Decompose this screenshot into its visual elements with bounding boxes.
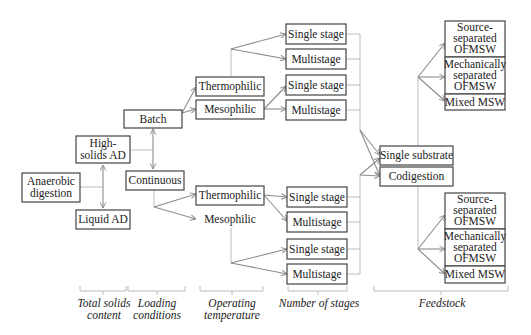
- node-continuous: Continuous: [126, 171, 184, 190]
- node-batch: Batch: [124, 110, 182, 128]
- node-label: solids AD: [80, 149, 126, 161]
- node-label: Single stage: [289, 243, 345, 256]
- node-codigestion: Codigestion: [380, 167, 453, 186]
- node-label: Single stage: [288, 79, 344, 92]
- category-labels: Total solids content Loading conditions …: [78, 297, 467, 322]
- node-single-stage-1: Single stage: [286, 24, 346, 44]
- feedstock-group-bottom: Source- separated OFMSW Mechanically sep…: [444, 193, 507, 283]
- node-label: Mesophilic: [204, 103, 256, 116]
- arrow-bottom-to-single-substrate: [360, 158, 380, 175]
- node-label: Single stage: [288, 28, 344, 41]
- bracket-total-solids: [80, 286, 126, 295]
- node-label: Mixed MSW: [445, 268, 506, 280]
- category-label-total-solids: content: [87, 309, 122, 321]
- node-mesophilic-batch: Mesophilic: [196, 100, 264, 119]
- node-anaerobic-digestion: Anaerobic digestion: [22, 173, 80, 202]
- node-label: OFMSW: [454, 43, 496, 55]
- bracket-stages: [288, 286, 347, 295]
- node-label: Mixed MSW: [445, 96, 506, 108]
- arrow-to-source-separated-top: [418, 43, 445, 77]
- category-label-stages: Number of stages: [278, 297, 360, 310]
- arrow-top-to-single-substrate: [360, 130, 380, 155]
- node-label: Liquid AD: [78, 213, 128, 226]
- node-label: Codigestion: [389, 170, 445, 183]
- node-label: digestion: [30, 187, 72, 200]
- node-label: Multistage: [291, 53, 340, 66]
- category-brackets: [80, 286, 508, 295]
- bracket-feedstock: [374, 286, 508, 295]
- node-label: Single substrate: [380, 149, 453, 162]
- arrow-to-single-stage-3: [264, 195, 287, 197]
- category-label-loading: conditions: [133, 309, 181, 321]
- bracket-loading: [128, 286, 185, 295]
- node-label: Continuous: [128, 174, 182, 186]
- category-label-feedstock: Feedstock: [418, 297, 467, 309]
- node-multistage-2: Multistage: [286, 100, 346, 120]
- node-label: OFMSW: [454, 80, 496, 92]
- arrow-to-multistage-3: [264, 195, 287, 221]
- node-label: Thermophilic: [199, 80, 262, 93]
- node-label: Thermophilic: [199, 189, 262, 202]
- arrow-to-single-stage-1: [231, 34, 286, 49]
- node-multistage-3: Multistage: [287, 212, 347, 232]
- node-label: Multistage: [292, 268, 341, 281]
- node-liquid-ad: Liquid AD: [76, 210, 130, 229]
- arrow-bottom-to-codigestion: [360, 175, 380, 176]
- anaerobic-digestion-classification-diagram: Anaerobic digestion High- solids AD Liqu…: [0, 0, 531, 335]
- feedstock-group-top: Source- separated OFMSW Mechanically sep…: [444, 21, 507, 110]
- node-label: Anaerobic: [27, 175, 75, 187]
- arrow-to-mixed-msw-bottom: [418, 249, 445, 274]
- node-label: Mesophilic: [204, 213, 256, 226]
- arrow-to-source-separated-bottom: [418, 215, 445, 249]
- arrow-to-multistage-4: [231, 263, 287, 274]
- category-label-total-solids: Total solids: [78, 297, 131, 309]
- node-multistage-1: Multistage: [286, 49, 346, 69]
- arrow-continuous-mesophilic: [154, 207, 196, 219]
- node-label: Multistage: [291, 104, 340, 117]
- node-thermophilic-continuous: Thermophilic: [196, 186, 264, 205]
- node-high-solids-ad: High- solids AD: [76, 136, 130, 163]
- node-thermophilic-batch: Thermophilic: [196, 77, 264, 96]
- node-single-stage-4: Single stage: [287, 239, 347, 259]
- node-label: Single stage: [289, 191, 345, 204]
- arrow-to-mixed-msw-top: [418, 77, 445, 101]
- arrow-top-to-codigestion: [360, 130, 380, 176]
- arrow-to-single-stage-4: [231, 249, 287, 263]
- arrow-to-single-stage-2: [264, 86, 286, 109]
- node-single-stage-2: Single stage: [286, 75, 346, 95]
- bracket-temperature: [200, 286, 263, 295]
- node-single-substrate: Single substrate: [380, 146, 453, 165]
- node-label: OFMSW: [454, 215, 496, 227]
- node-label: OFMSW: [454, 252, 496, 264]
- arrow-to-multistage-1: [231, 49, 286, 59]
- node-mesophilic-continuous: Mesophilic: [196, 210, 264, 228]
- node-single-stage-3: Single stage: [287, 187, 347, 207]
- node-multistage-4: Multistage: [287, 264, 347, 284]
- node-label: Batch: [140, 113, 167, 125]
- node-label: Multistage: [292, 216, 341, 229]
- arrow-continuous-thermophilic: [154, 194, 196, 207]
- category-label-temperature: temperature: [204, 309, 260, 322]
